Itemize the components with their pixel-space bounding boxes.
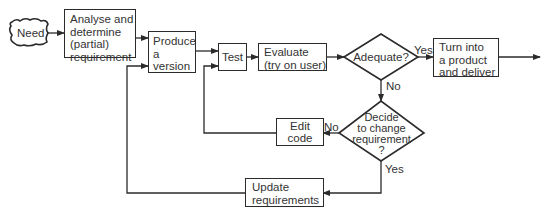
deliver-line-2: a product bbox=[439, 54, 493, 67]
adequate-decision-label: Adequate? bbox=[344, 51, 418, 64]
analyse-requirement-node: Analyse and determine (partial) requirem… bbox=[64, 9, 136, 58]
test-node-label: Test bbox=[222, 51, 243, 64]
deliver-line-1: Turn into bbox=[439, 41, 493, 54]
produce-version-node: Produce a version bbox=[148, 31, 196, 73]
evaluate-line-1: Evaluate bbox=[264, 46, 321, 59]
adequate-yes-label: Yes bbox=[414, 44, 433, 56]
analyse-line-4: requirement bbox=[70, 51, 130, 64]
analyse-line-3: (partial) bbox=[70, 38, 130, 51]
produce-line-2: a bbox=[153, 48, 191, 61]
update-line-1: Update bbox=[252, 181, 317, 194]
update-requirements-node: Update requirements bbox=[245, 178, 324, 207]
adequate-no-label: No bbox=[386, 80, 401, 92]
analyse-line-2: determine bbox=[70, 26, 130, 39]
edit-line-1: Edit bbox=[290, 120, 310, 133]
produce-line-1: Produce bbox=[153, 35, 191, 48]
decide-line-4: ? bbox=[339, 145, 424, 156]
decide-decision-label: Decide to change requirement ? bbox=[339, 112, 424, 156]
evaluate-node: Evaluate (try on user) bbox=[258, 43, 327, 71]
edit-line-2: code bbox=[288, 132, 313, 145]
analyse-line-1: Analyse and bbox=[70, 13, 130, 26]
edit-code-node: Edit code bbox=[276, 118, 324, 146]
need-node-label: Need bbox=[17, 27, 45, 39]
update-line-2: requirements bbox=[252, 194, 317, 207]
decide-yes-label: Yes bbox=[385, 163, 404, 175]
decide-no-label: No bbox=[324, 121, 339, 133]
test-node: Test bbox=[218, 43, 247, 71]
produce-line-3: version bbox=[153, 60, 191, 73]
deliver-product-node: Turn into a product and deliver bbox=[433, 38, 499, 77]
deliver-line-3: and deliver bbox=[439, 66, 493, 79]
evaluate-line-2: (try on user) bbox=[264, 59, 321, 72]
